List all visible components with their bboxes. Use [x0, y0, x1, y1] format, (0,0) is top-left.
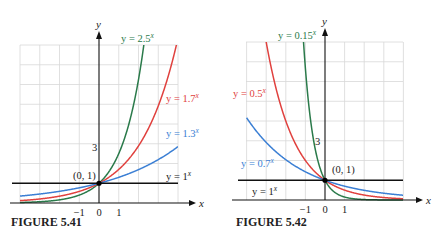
point-label: (0, 1) — [332, 164, 355, 176]
series-label-exponent: x — [187, 169, 192, 178]
series-label: y = 1.7x — [166, 91, 200, 104]
series-label-base: y = 2.5 — [121, 33, 151, 44]
y-axis-label: y — [321, 15, 327, 27]
series-label-exponent: x — [195, 126, 200, 135]
y-axis-arrow-icon — [96, 31, 102, 39]
series-label-base: y = 1.3 — [166, 128, 196, 139]
figures-canvas: xy−1013(0, 1)y = 2.5xy = 1.7xy = 1.3xy =… — [0, 0, 439, 238]
figure-2: xy−1013(0, 1)y = 0.15xy = 0.5xy = 0.7xy … — [232, 15, 431, 215]
y-axis-label: y — [95, 18, 101, 30]
series-label-base: y = 0.15 — [278, 30, 313, 41]
x-tick-label: 1 — [116, 207, 121, 218]
point-label: (0, 1) — [73, 170, 96, 182]
x-axis-label: x — [425, 194, 431, 206]
figure-1: xy−1013(0, 1)y = 2.5xy = 1.7xy = 1.3xy =… — [10, 18, 204, 218]
series-label: y = 1.3x — [166, 126, 200, 139]
series-label-exponent: x — [195, 91, 200, 100]
y-tick-label: 3 — [315, 136, 320, 147]
x-tick-label: 1 — [342, 204, 347, 215]
intersection-point — [96, 181, 101, 186]
figure-5-42-caption: FIGURE 5.42 — [236, 215, 307, 230]
x-axis-arrow-icon — [416, 197, 423, 203]
series-label-exponent: x — [150, 31, 155, 40]
series-label: y = 2.5x — [121, 31, 155, 44]
series-label-base: y = 1 — [252, 186, 274, 197]
series-label-base: y = 1 — [166, 171, 188, 182]
series-label-exponent: x — [270, 156, 275, 165]
series-label: y = 1x — [252, 184, 278, 197]
series-label-base: y = 0.7 — [241, 158, 271, 169]
series-label-base: y = 1.7 — [166, 93, 196, 104]
figure-5-41-caption: FIGURE 5.41 — [11, 215, 82, 230]
x-axis-label: x — [198, 197, 204, 209]
x-tick-label: 0 — [322, 204, 327, 215]
y-axis-arrow-icon — [322, 28, 328, 36]
y-tick-label: 3 — [92, 142, 97, 153]
series-label: y = 0.7x — [241, 156, 275, 169]
x-axis-arrow-icon — [189, 200, 196, 206]
series-label: y = 0.5x — [233, 86, 267, 99]
series-label: y = 0.15x — [278, 28, 317, 41]
x-tick-label: −1 — [300, 204, 311, 215]
series-label-base: y = 0.5 — [233, 88, 263, 99]
series-label-exponent: x — [262, 86, 267, 95]
series-label-exponent: x — [273, 184, 278, 193]
intersection-point — [322, 178, 327, 183]
series-label-exponent: x — [312, 28, 317, 37]
x-tick-label: 0 — [96, 207, 101, 218]
series-label: y = 1x — [166, 169, 192, 182]
